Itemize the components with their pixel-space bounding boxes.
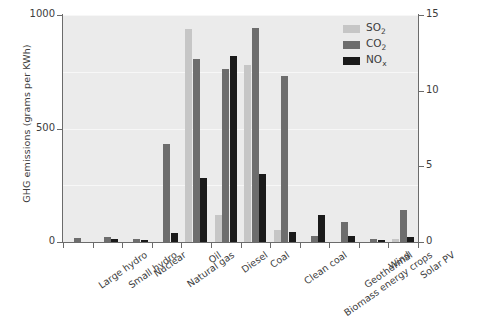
y-tick-right: [419, 15, 424, 16]
x-tick: [270, 243, 271, 248]
chart-container: GHG emissions (grams per KWh) NOx and SO…: [0, 0, 499, 332]
bar-group: [244, 15, 266, 242]
legend-item-co2: CO2: [343, 37, 387, 53]
y-tick-label-left: 1000: [21, 8, 55, 19]
bar-so2: [244, 65, 251, 242]
y-tick-label-right: 0: [426, 235, 432, 246]
bar-co2: [281, 76, 288, 242]
x-tick: [388, 243, 389, 248]
x-category-label: Diesel: [239, 249, 269, 275]
legend-label-co2: CO2: [366, 37, 386, 52]
legend-label-so2: SO2: [366, 21, 386, 36]
y-axis-left-line: [62, 14, 63, 243]
bar-group: [67, 15, 89, 242]
bar-nox: [289, 232, 296, 242]
bar-group: [215, 15, 237, 242]
x-tick: [122, 243, 123, 248]
x-category-label: Clean coal: [302, 249, 349, 286]
y-tick-left: [57, 242, 62, 243]
y-tick-label-left: 0: [21, 235, 55, 246]
y-tick-label-right: 10: [426, 84, 439, 95]
bar-co2: [341, 222, 348, 242]
bar-nox: [318, 215, 325, 242]
x-category-label: Biomass energy crops: [342, 249, 434, 318]
legend-label-nox: NOx: [366, 53, 387, 68]
bar-group: [303, 15, 325, 242]
legend-item-nox: NOx: [343, 53, 387, 69]
bar-nox: [200, 178, 207, 242]
y-axis-right-line: [418, 14, 419, 243]
x-tick: [181, 243, 182, 248]
x-tick: [241, 243, 242, 248]
bar-nox: [171, 233, 178, 242]
bar-group: [156, 15, 178, 242]
bar-group: [126, 15, 148, 242]
y-tick-left: [57, 15, 62, 16]
legend-item-so2: SO2: [343, 21, 387, 37]
bar-co2: [252, 28, 259, 243]
bar-nox: [259, 174, 266, 242]
y-tick-label-right: 15: [426, 8, 439, 19]
x-tick: [300, 243, 301, 248]
bar-co2: [222, 69, 229, 242]
bar-group: [274, 15, 296, 242]
legend-swatch-nox: [343, 57, 360, 65]
bar-co2: [400, 210, 407, 242]
y-tick-label-left: 500: [21, 122, 55, 133]
x-tick: [152, 243, 153, 248]
x-tick: [211, 243, 212, 248]
y-tick-right: [419, 91, 424, 92]
bar-co2: [163, 144, 170, 242]
y-tick-left: [57, 129, 62, 130]
x-tick: [329, 243, 330, 248]
bar-so2: [274, 230, 281, 242]
bar-so2: [215, 215, 222, 242]
bar-group: [96, 15, 118, 242]
y-tick-right: [419, 166, 424, 167]
bar-so2: [185, 29, 192, 242]
bar-co2: [193, 59, 200, 242]
x-tick: [359, 243, 360, 248]
bar-group: [185, 15, 207, 242]
y-tick-label-right: 5: [426, 159, 432, 170]
legend-swatch-so2: [343, 25, 360, 33]
chart-legend: SO2CO2NOx: [343, 21, 387, 69]
y-tick-right: [419, 242, 424, 243]
legend-swatch-co2: [343, 41, 360, 49]
bar-group: [392, 15, 414, 242]
x-category-label: Coal: [267, 249, 290, 270]
x-tick: [63, 243, 64, 248]
x-tick: [418, 243, 419, 248]
bar-nox: [230, 56, 237, 242]
x-tick: [93, 243, 94, 248]
